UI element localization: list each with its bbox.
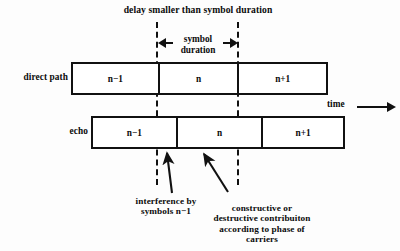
direct-path-symbol-cell: n+1 bbox=[237, 64, 326, 93]
row-label-direct-path: direct path bbox=[2, 72, 68, 82]
echo-symbol-cell: n bbox=[176, 118, 262, 147]
contribution-caption: constructive or destructive contribuiton… bbox=[196, 203, 328, 244]
symbol-duration-label: symbol duration bbox=[158, 34, 238, 55]
symbol-duration-measure: symbol duration bbox=[158, 36, 238, 60]
arrow-right-icon bbox=[230, 38, 238, 48]
interference-caption-line2: symbols n−1 bbox=[141, 206, 191, 216]
direct-path-symbol-cell: n bbox=[158, 64, 238, 93]
time-axis-line bbox=[357, 106, 389, 108]
direct-path-symbol-cell: n−1 bbox=[73, 64, 158, 93]
time-axis-label: time bbox=[327, 99, 345, 109]
contribution-caption-line4: carriers bbox=[246, 234, 278, 244]
contribution-caption-line3: according to phase of bbox=[219, 224, 305, 234]
diagram-title-text: delay smaller than symbol duration bbox=[124, 5, 273, 16]
interference-arrow-icon bbox=[167, 153, 172, 193]
diagram-title: delay smaller than symbol duration bbox=[0, 5, 400, 16]
time-axis: time bbox=[327, 99, 399, 115]
diagram-canvas: delay smaller than symbol duration symbo… bbox=[0, 0, 400, 251]
echo-symbol-cell: n−1 bbox=[93, 118, 176, 147]
echo-symbol-bar: n−1 n n+1 bbox=[91, 116, 345, 149]
contribution-caption-line1: constructive or bbox=[232, 203, 292, 213]
arrow-right-icon bbox=[387, 102, 396, 112]
symbol-duration-label-line2: duration bbox=[181, 45, 216, 55]
contribution-arrow-icon bbox=[204, 154, 228, 192]
interference-caption-line1: interference by bbox=[136, 196, 197, 206]
contribution-caption-line2: destructive contribuiton bbox=[213, 213, 310, 223]
row-label-echo: echo bbox=[22, 126, 88, 136]
echo-symbol-cell: n+1 bbox=[261, 118, 343, 147]
direct-path-symbol-bar: n−1 n n+1 bbox=[71, 62, 328, 95]
symbol-duration-label-line1: symbol bbox=[184, 34, 212, 44]
